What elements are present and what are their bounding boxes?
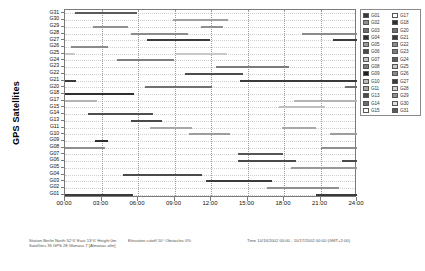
gridline-horizontal (65, 60, 355, 61)
legend-item-g21[interactable]: G21 (392, 34, 421, 41)
legend-item-g22[interactable]: G22 (392, 41, 421, 48)
legend-item-g27[interactable]: G27 (392, 78, 421, 85)
satellite-visibility-chart: GPS Satellites G01G02G03G04G05G06G07G08G… (0, 0, 425, 271)
visibility-bar (176, 53, 227, 55)
y-axis-label-g07: G07 (49, 151, 59, 156)
y-axis-title: GPS Satellites (7, 58, 25, 168)
legend-label: G11 (371, 86, 379, 91)
visibility-bar (206, 180, 272, 182)
legend-item-g14[interactable]: G14 (363, 100, 392, 107)
visibility-bar (240, 80, 357, 82)
legend-label: G21 (400, 35, 408, 40)
legend-swatch-icon (363, 86, 369, 91)
y-axis-title-text: GPS Satellites (11, 81, 21, 145)
legend-label: G25 (400, 64, 408, 69)
y-axis-label-g20: G20 (49, 84, 59, 89)
legend-item-g20[interactable]: G20 (392, 27, 421, 34)
legend-label: G29 (400, 93, 408, 98)
legend-swatch-icon (363, 42, 369, 47)
legend-swatch-icon (392, 86, 398, 91)
legend-item-g03[interactable]: G03 (363, 27, 392, 34)
y-axis-label-g23: G23 (49, 63, 59, 68)
gridline-vertical (175, 10, 176, 196)
legend-item-g09[interactable]: G09 (363, 70, 392, 77)
y-axis-label-g02: G02 (49, 184, 59, 189)
x-axis-label: 15:00 (239, 200, 254, 206)
x-axis-label: 03:00 (93, 200, 108, 206)
legend-item-g07[interactable]: G07 (363, 56, 392, 63)
gridline-horizontal (65, 161, 355, 162)
y-axis-label-g03: G03 (49, 178, 59, 183)
status-time-line: Time 10/16/2002 00:00 - 10/17/2002 00:00… (247, 238, 350, 243)
y-axis-label-g04: G04 (49, 171, 59, 176)
legend-item-g25[interactable]: G25 (392, 63, 421, 70)
legend-item-g15[interactable]: G15 (363, 107, 392, 114)
legend-item-g29[interactable]: G29 (392, 92, 421, 99)
y-axis-label-g29: G29 (49, 23, 59, 28)
legend-label: G05 (371, 42, 379, 47)
legend-item-g04[interactable]: G04 (363, 34, 392, 41)
legend-swatch-icon (392, 101, 398, 106)
gridline-vertical (248, 10, 249, 196)
y-axis-label-g30: G30 (49, 16, 59, 21)
visibility-bar (238, 153, 283, 155)
visibility-bar (117, 59, 174, 61)
legend-label: G22 (400, 42, 408, 47)
y-axis-label-g08: G08 (49, 144, 59, 149)
status-bar: Station Berlin North 52°0' East 13°0' He… (0, 236, 425, 258)
y-axis-label-g27: G27 (49, 37, 59, 42)
x-axis-label: 18:00 (275, 200, 290, 206)
visibility-bar (185, 73, 242, 75)
status-station-info: Station Berlin North 52°0' East 13°0' He… (29, 238, 116, 249)
x-axis-tick-labels: 00:0003:0006:0009:0012:0015:0018:0021:00… (0, 200, 425, 212)
legend-label: G01 (371, 13, 379, 18)
x-axis-label: 09:00 (166, 200, 181, 206)
legend-label: G07 (371, 57, 379, 62)
visibility-bar (173, 19, 228, 21)
legend-swatch-icon (363, 57, 369, 62)
legend-label: G08 (371, 64, 379, 69)
visibility-bar (316, 194, 357, 196)
legend-swatch-icon (392, 13, 398, 18)
visibility-bar (291, 167, 357, 169)
legend-item-g30[interactable]: G30 (392, 100, 421, 107)
legend-swatch-icon (363, 35, 369, 40)
legend-swatch-icon (363, 20, 369, 25)
legend-label: G02 (371, 20, 379, 25)
legend-label: G20 (400, 28, 408, 33)
visibility-bar (279, 106, 325, 108)
legend-label: G17 (400, 13, 408, 18)
legend-item-g10[interactable]: G10 (363, 78, 392, 85)
legend-item-g26[interactable]: G26 (392, 70, 421, 77)
legend-item-g13[interactable]: G13 (363, 92, 392, 99)
legend-item-g01[interactable]: G01 (363, 12, 392, 19)
legend-label: G04 (371, 35, 379, 40)
legend-item-g24[interactable]: G24 (392, 56, 421, 63)
legend-column-2: G17G18G20G21G22G23G24G25G26G27G28G29G30G… (392, 12, 421, 114)
legend-item-g02[interactable]: G02 (363, 19, 392, 26)
legend-item-g28[interactable]: G28 (392, 85, 421, 92)
legend-swatch-icon (392, 71, 398, 76)
legend: G01G02G03G04G05G06G07G08G09G10G11G13G14G… (360, 9, 421, 116)
plot-area (64, 9, 356, 197)
y-axis-label-g09: G09 (49, 137, 59, 142)
y-axis-label-g28: G28 (49, 30, 59, 35)
legend-item-g17[interactable]: G17 (392, 12, 421, 19)
x-axis-label: 00:00 (56, 200, 71, 206)
visibility-bar (145, 86, 212, 88)
legend-item-g31[interactable]: G31 (392, 107, 421, 114)
x-axis-label: 06:00 (129, 200, 144, 206)
legend-label: G26 (400, 71, 408, 76)
y-axis-label-g21: G21 (49, 77, 59, 82)
legend-item-g18[interactable]: G18 (392, 19, 421, 26)
legend-item-g08[interactable]: G08 (363, 63, 392, 70)
y-axis-label-g11: G11 (50, 124, 59, 129)
legend-label: G10 (371, 79, 379, 84)
legend-item-g23[interactable]: G23 (392, 48, 421, 55)
legend-item-g05[interactable]: G05 (363, 41, 392, 48)
legend-item-g11[interactable]: G11 (363, 85, 392, 92)
legend-label: G31 (400, 108, 408, 113)
legend-item-g06[interactable]: G06 (363, 48, 392, 55)
legend-column-1: G01G02G03G04G05G06G07G08G09G10G11G13G14G… (363, 12, 392, 114)
y-axis-label-g06: G06 (49, 157, 59, 162)
